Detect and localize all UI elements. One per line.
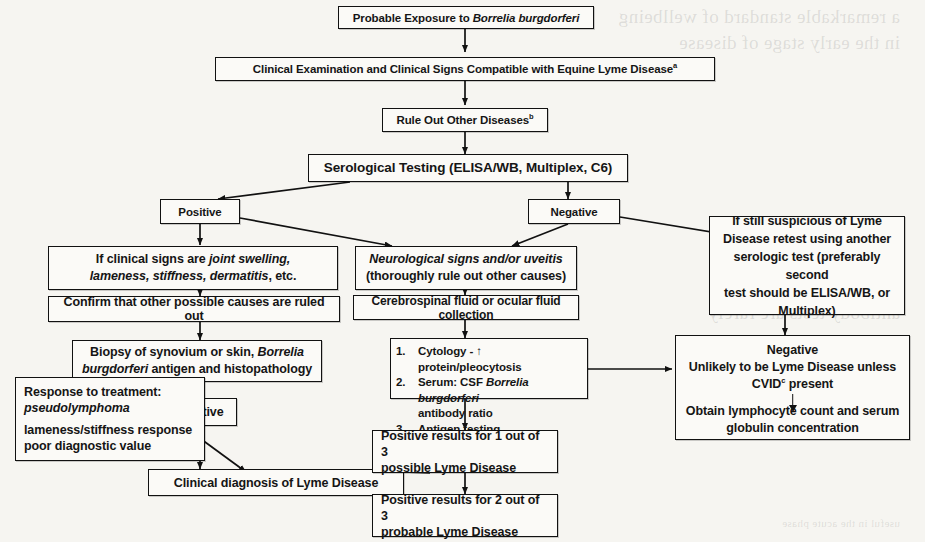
node-text: Unlikely to be Lyme Disease unless xyxy=(680,359,905,376)
node-text: (thoroughly rule out other causes) xyxy=(360,268,572,285)
node-retest[interactable]: If still suspicious of Lyme Disease rete… xyxy=(709,216,905,315)
footnote-marker-a: a xyxy=(673,61,677,70)
node-confirm-causes[interactable]: Confirm that other possible causes are r… xyxy=(48,296,340,322)
node-text-italic: lameness, stiffness, dermatitis xyxy=(90,269,269,283)
edge-positive-to-neuro xyxy=(240,218,392,246)
node-text: serologic test (preferably second xyxy=(714,248,900,284)
node-negative[interactable]: Negative xyxy=(528,199,620,224)
node-text: Confirm that other possible causes are r… xyxy=(53,295,335,323)
node-text: Biopsy of synovium or skin, xyxy=(90,345,257,359)
node-text: lameness/stiffness response xyxy=(24,422,196,438)
list-text: Serum: CSF xyxy=(418,376,486,388)
node-text: Negative xyxy=(533,205,615,219)
bleed-through-text: in the early stage of disease xyxy=(40,30,900,56)
node-text: Rule Out Other Diseases xyxy=(396,114,529,126)
list-item: antibody ratio xyxy=(396,406,584,422)
edge-serology-to-positive xyxy=(218,182,350,199)
node-text: Response to treatment: xyxy=(24,384,196,400)
node-probable-exposure[interactable]: Probable Exposure to Borrelia burgdorfer… xyxy=(338,6,594,29)
node-text-italic: joint swelling, xyxy=(209,252,290,266)
flowchart-canvas: a remarkable standard of wellbeing in th… xyxy=(0,0,925,542)
node-result-1-of-3[interactable]: Positive results for 1 out of 3 possible… xyxy=(372,430,558,473)
node-clinical-diagnosis[interactable]: Clinical diagnosis of Lyme Disease xyxy=(148,469,404,496)
node-text: Positive results for 1 out of 3 xyxy=(381,428,549,460)
node-csf-collection[interactable]: Cerebrospinal fluid or ocular fluid coll… xyxy=(353,295,579,320)
node-positive[interactable]: Positive xyxy=(160,199,240,224)
node-text-italic: Neurological signs and/or uveitis xyxy=(369,252,562,266)
node-diagnostic-tests[interactable]: 1. Cytology - ↑ protein/pleocytosis 2. S… xyxy=(390,338,588,399)
spacer xyxy=(396,406,418,422)
node-text: Disease retest using another xyxy=(714,230,900,248)
node-response-to-treatment[interactable]: Response to treatment: pseudolymphoma la… xyxy=(15,377,205,461)
node-text: Clinical Examination and Clinical Signs … xyxy=(253,63,673,75)
node-text-italic: Borrelia xyxy=(257,345,303,359)
node-text: Positive xyxy=(165,205,235,219)
list-number: 1. xyxy=(396,344,418,375)
diagnostic-tests-list: 1. Cytology - ↑ protein/pleocytosis 2. S… xyxy=(390,341,588,440)
node-result-2-of-3[interactable]: Positive results for 2 out of 3 probable… xyxy=(372,494,558,537)
node-text: Probable Exposure to xyxy=(353,12,473,24)
node-text: If clinical signs are xyxy=(96,252,209,266)
node-biopsy[interactable]: Biopsy of synovium or skin, Borrelia bur… xyxy=(72,340,322,382)
list-text: Cytology - ↑ protein/pleocytosis xyxy=(418,344,584,375)
list-text: antibody ratio xyxy=(418,406,584,422)
node-text: antigen and histopathology xyxy=(148,362,312,376)
node-text: , etc. xyxy=(268,269,296,283)
node-negative-result[interactable]: Negative Unlikely to be Lyme Disease unl… xyxy=(675,335,910,440)
node-text: Positive results for 2 out of 3 xyxy=(381,492,549,524)
node-text: poor diagnostic value xyxy=(24,438,196,454)
node-text: globulin concentration xyxy=(680,420,905,437)
node-text: If still suspicious of Lyme xyxy=(714,212,900,230)
node-text-italic: burgdorferi xyxy=(82,362,148,376)
node-text: probable Lyme Disease xyxy=(381,524,549,540)
node-clinical-examination[interactable]: Clinical Examination and Clinical Signs … xyxy=(215,57,715,81)
edge-negative-to-neuro xyxy=(512,224,568,246)
inner-arrow-down-icon xyxy=(680,393,905,403)
node-text: Serological Testing (ELISA/WB, Multiplex… xyxy=(313,161,623,175)
node-text-italic: Borrelia burgdorferi xyxy=(473,12,580,24)
node-text: Clinical diagnosis of Lyme Disease xyxy=(153,476,399,490)
list-number: 2. xyxy=(396,375,418,406)
node-neurological-signs[interactable]: Neurological signs and/or uveitis (thoro… xyxy=(355,246,577,290)
node-text: Cerebrospinal fluid or ocular fluid coll… xyxy=(358,294,574,322)
node-text: Negative xyxy=(680,342,905,359)
node-text: CVID xyxy=(752,377,781,391)
list-item: 2. Serum: CSF Borrelia burgdorferi xyxy=(396,375,584,406)
node-serological-testing[interactable]: Serological Testing (ELISA/WB, Multiplex… xyxy=(308,154,628,182)
node-clinical-signs[interactable]: If clinical signs are joint swelling, la… xyxy=(48,246,338,290)
footnote-marker-b: b xyxy=(529,112,533,121)
node-text: test should be ELISA/WB, or xyxy=(714,284,900,302)
node-text: Multiplex) xyxy=(714,302,900,320)
node-text: possible Lyme Disease xyxy=(381,460,549,476)
list-item: 1. Cytology - ↑ protein/pleocytosis xyxy=(396,344,584,375)
node-text: present xyxy=(785,377,833,391)
node-rule-out-other-diseases[interactable]: Rule Out Other Diseasesb xyxy=(382,108,548,132)
node-text-italic: pseudolymphoma xyxy=(24,401,130,415)
